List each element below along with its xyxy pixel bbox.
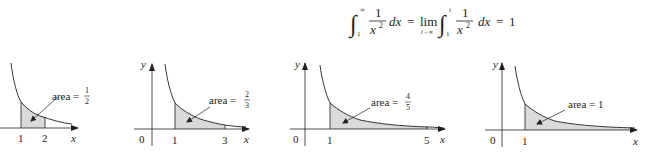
area-numerator: 4: [406, 92, 410, 101]
x-axis-label: x: [70, 132, 76, 144]
lhs-upper-limit: ∞: [360, 6, 365, 14]
y-axis-label: y: [294, 58, 300, 70]
lhs-exponent: 2: [379, 21, 383, 30]
rhs-numerator: 1: [462, 5, 469, 20]
panel-4-graph: y 0 1 x area = 1: [485, 58, 638, 147]
lhs-denominator: x: [369, 22, 376, 37]
y-axis-label: y: [492, 58, 498, 70]
panel-2-graph: y 0 1 3 x area = 2 3: [134, 58, 250, 146]
origin-label: 0: [293, 133, 299, 145]
area-numerator: 1: [85, 86, 89, 95]
equals-sign: =: [496, 14, 503, 29]
lim-subscript: t→∞: [421, 29, 434, 35]
area-denominator: 3: [245, 101, 249, 110]
area-label: area =: [209, 94, 236, 106]
tick-label: 1: [327, 134, 333, 146]
lhs-lower-limit: 1: [357, 30, 361, 38]
area-label: area = 1: [568, 98, 604, 110]
tick-label: 1: [18, 132, 24, 144]
area-numerator: 2: [245, 90, 249, 99]
area-label: area =: [52, 90, 79, 102]
equals-sign: =: [407, 14, 414, 29]
tick-label: 3: [222, 134, 228, 146]
origin-label: 0: [490, 134, 496, 146]
area-label: area =: [371, 96, 398, 108]
rhs-upper-limit: t: [449, 6, 452, 14]
area-denominator: 5: [406, 103, 410, 112]
x-axis-label: x: [243, 133, 249, 145]
tick-label: 1: [522, 135, 528, 147]
rhs-lower-limit: 1: [446, 30, 450, 38]
x-axis-label: x: [632, 135, 638, 147]
rhs-exponent: 2: [466, 21, 470, 30]
integral-equation: ∫ ∞ 1 1 x 2 dx = lim t→∞ ∫ t 1 1 x 2 dx …: [348, 5, 516, 39]
shaded-area: [175, 103, 225, 129]
rhs-denominator: x: [456, 22, 463, 37]
lhs-numerator: 1: [375, 5, 382, 20]
panel-1-graph: 1 2 x area = 1 2: [0, 63, 90, 144]
tick-label: 5: [424, 134, 430, 146]
panel-3-graph: y 0 1 5 x area = 4 5: [290, 58, 445, 146]
tick-label: 2: [42, 132, 48, 144]
x-axis-label: x: [439, 133, 445, 145]
lhs-dx: dx: [389, 14, 402, 29]
tick-label: 1: [172, 134, 178, 146]
area-denominator: 2: [85, 97, 89, 106]
y-axis-label: y: [140, 58, 146, 70]
rhs-dx: dx: [478, 14, 491, 29]
origin-label: 0: [139, 133, 145, 145]
lim-operator: lim: [420, 14, 437, 29]
result-value: 1: [509, 14, 516, 29]
improper-integral-figure: ∫ ∞ 1 1 x 2 dx = lim t→∞ ∫ t 1 1 x 2 dx …: [0, 0, 646, 158]
